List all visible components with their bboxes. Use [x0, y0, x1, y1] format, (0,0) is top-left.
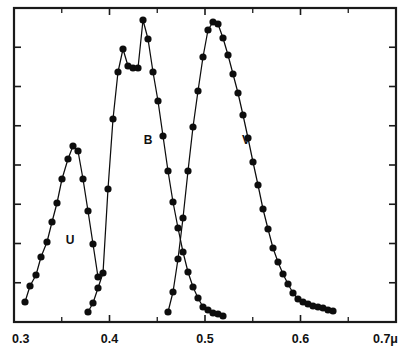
- data-point-v: [204, 26, 211, 33]
- curve-label-b: B: [144, 133, 153, 147]
- data-point-b: [144, 35, 151, 42]
- data-point-b: [94, 284, 101, 291]
- data-point-v: [219, 34, 226, 41]
- data-point-v: [164, 308, 171, 315]
- data-point-b: [184, 268, 191, 275]
- data-point-v: [249, 158, 256, 165]
- data-point-b: [194, 294, 201, 301]
- data-point-v: [199, 53, 206, 60]
- data-point-v: [229, 70, 236, 77]
- data-point-markers: [21, 16, 336, 319]
- data-point-v: [289, 289, 296, 296]
- data-point-v: [259, 205, 266, 212]
- data-point-v: [189, 123, 196, 130]
- x-axis-tick-labels: 0.30.40.50.60.7μ: [12, 332, 398, 346]
- curve-u: [25, 146, 98, 302]
- data-point-u: [89, 240, 96, 247]
- data-point-b: [174, 224, 181, 231]
- data-point-b: [134, 64, 141, 71]
- data-point-u: [79, 175, 86, 182]
- data-point-v: [269, 244, 276, 251]
- data-point-b: [164, 167, 171, 174]
- data-point-u: [84, 207, 91, 214]
- data-point-v: [329, 307, 336, 314]
- data-point-u: [53, 199, 60, 206]
- data-point-b: [119, 45, 126, 52]
- data-point-v: [179, 214, 186, 221]
- data-point-b: [159, 132, 166, 139]
- data-point-v: [214, 20, 221, 27]
- data-point-b: [84, 308, 91, 315]
- data-point-v: [174, 255, 181, 262]
- x-axis-label-0: 0.3: [12, 332, 29, 346]
- data-point-u: [64, 155, 71, 162]
- data-point-b: [149, 68, 156, 75]
- data-point-u: [37, 253, 44, 260]
- data-point-b: [99, 269, 106, 276]
- data-point-u: [58, 175, 65, 182]
- data-point-b: [169, 198, 176, 205]
- y-axis-ticks: [14, 47, 396, 283]
- data-point-b: [219, 312, 226, 319]
- data-point-v: [169, 288, 176, 295]
- data-point-v: [194, 87, 201, 94]
- data-point-v: [254, 181, 261, 188]
- data-point-v: [184, 167, 191, 174]
- plot-canvas: UBV 0.30.40.50.60.7μ: [0, 0, 414, 353]
- data-point-b: [139, 16, 146, 23]
- data-point-u: [48, 218, 55, 225]
- data-point-b: [154, 97, 161, 104]
- data-point-u: [74, 147, 81, 154]
- data-point-b: [104, 185, 111, 192]
- data-point-u: [26, 282, 33, 289]
- data-point-u: [32, 271, 39, 278]
- x-axis-label-2: 0.5: [196, 332, 213, 346]
- x-axis-label-3: 0.6: [292, 332, 309, 346]
- data-point-b: [189, 283, 196, 290]
- data-point-v: [239, 111, 246, 118]
- curve-label-v: V: [242, 133, 250, 147]
- curve-v: [168, 22, 333, 312]
- data-point-b: [89, 299, 96, 306]
- data-point-u: [43, 238, 50, 245]
- curve-label-u: U: [66, 233, 75, 247]
- data-point-v: [284, 280, 291, 287]
- data-point-v: [274, 258, 281, 265]
- spectral-response-chart: UBV 0.30.40.50.60.7μ: [0, 0, 414, 353]
- data-point-b: [109, 115, 116, 122]
- x-axis-label-4: 0.7μ: [373, 332, 398, 346]
- curve-b: [88, 20, 223, 316]
- data-point-u: [21, 298, 28, 305]
- data-point-v: [264, 225, 271, 232]
- curve-annotation-group: UBV: [66, 133, 250, 247]
- data-point-b: [114, 68, 121, 75]
- curve-group: [25, 20, 333, 316]
- data-point-v: [224, 51, 231, 58]
- data-point-v: [234, 89, 241, 96]
- x-axis-label-1: 0.4: [101, 332, 118, 346]
- data-point-v: [279, 270, 286, 277]
- data-point-b: [179, 248, 186, 255]
